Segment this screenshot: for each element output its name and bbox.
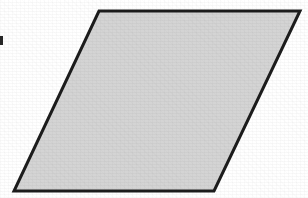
left-edge-mark (0, 36, 3, 45)
parallelogram-svg (0, 0, 308, 198)
parallelogram-shape (14, 11, 300, 191)
figure-canvas (0, 0, 308, 198)
